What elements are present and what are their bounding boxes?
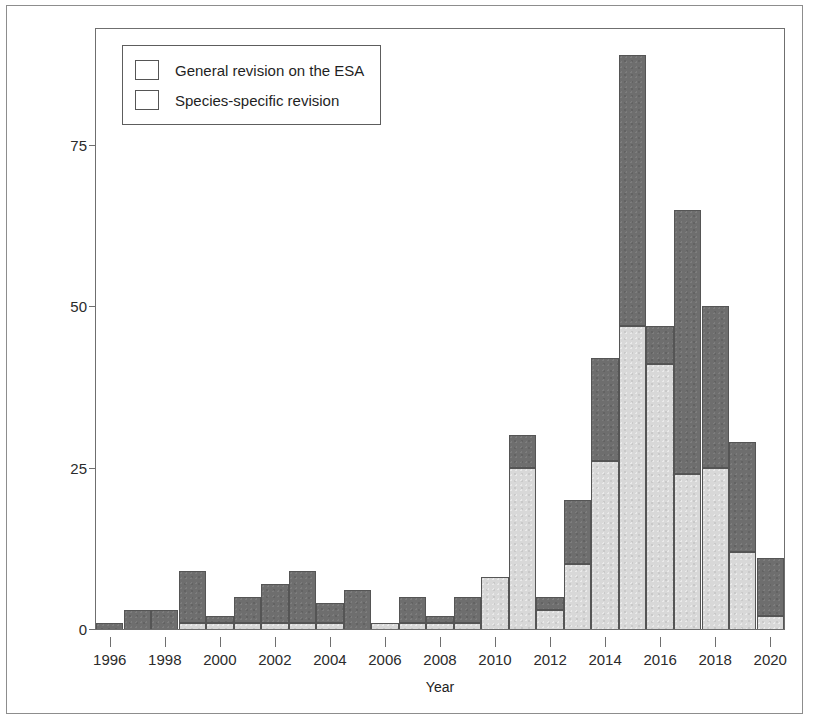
bar-segment-general-2004: [316, 603, 343, 622]
bar-segment-general-2018: [702, 306, 729, 467]
y-axis-tick-label: 75: [70, 137, 87, 154]
bar-segment-species-2019: [729, 552, 756, 629]
legend-swatch-species-icon: [135, 90, 159, 110]
bar-segment-species-2014: [591, 461, 618, 629]
bar-segment-species-2011: [509, 468, 536, 629]
x-axis-tick: [495, 637, 496, 647]
legend-label-general: General revision on the ESA: [175, 62, 364, 79]
x-axis-tick: [330, 637, 331, 647]
bar-segment-general-2001: [234, 597, 261, 623]
bar-segment-species-2015: [619, 326, 646, 629]
bar-segment-general-2002: [261, 584, 288, 623]
x-axis-tick-label: 2012: [533, 651, 566, 668]
bar-2017: [674, 210, 701, 629]
bar-2006: [371, 623, 398, 629]
x-axis-tick-label: 1998: [148, 651, 181, 668]
bar-segment-general-2020: [757, 558, 784, 616]
bar-segment-general-2005: [344, 590, 371, 629]
bar-2015: [619, 55, 646, 629]
x-axis-tick: [550, 637, 551, 647]
legend-item-species: Species-specific revision: [135, 85, 364, 115]
bar-2002: [261, 584, 288, 629]
x-axis-tick-label: 2000: [203, 651, 236, 668]
x-axis-tick: [715, 637, 716, 647]
y-axis-tick-label: 0: [79, 621, 87, 638]
y-axis-tick: [89, 145, 96, 146]
bar-segment-general-2017: [674, 210, 701, 475]
bar-segment-general-2012: [536, 597, 563, 610]
y-axis-tick-label: 50: [70, 298, 87, 315]
bar-2018: [702, 306, 729, 629]
x-axis-tick-label: 2008: [423, 651, 456, 668]
bar-2010: [481, 577, 508, 629]
legend-label-species: Species-specific revision: [175, 92, 339, 109]
bar-segment-general-2014: [591, 358, 618, 461]
x-axis-tick-label: 2020: [754, 651, 787, 668]
bar-1997: [124, 610, 151, 629]
bar-segment-species-2010: [481, 577, 508, 629]
y-axis-tick: [89, 629, 96, 630]
bar-segment-species-2001: [234, 623, 261, 629]
bar-2020: [757, 558, 784, 629]
x-axis-tick: [770, 637, 771, 647]
y-axis-tick: [89, 468, 96, 469]
x-axis-tick: [605, 637, 606, 647]
legend-swatch-general-icon: [135, 60, 159, 80]
y-axis-tick: [89, 306, 96, 307]
bar-1996: [96, 623, 123, 629]
bar-segment-general-2011: [509, 435, 536, 467]
bar-segment-species-2016: [646, 364, 673, 629]
x-axis-tick: [165, 637, 166, 647]
bar-segment-general-2009: [454, 597, 481, 623]
bar-segment-species-2002: [261, 623, 288, 629]
x-axis-tick-label: 1996: [93, 651, 126, 668]
bar-2001: [234, 597, 261, 629]
bar-2014: [591, 358, 618, 629]
legend-item-general: General revision on the ESA: [135, 55, 364, 85]
bar-segment-species-2003: [289, 623, 316, 629]
bar-segment-species-2000: [206, 623, 233, 629]
bar-2011: [509, 435, 536, 629]
x-axis-tick-label: 2014: [588, 651, 621, 668]
x-axis-tick-label: 2006: [368, 651, 401, 668]
x-axis-tick: [110, 637, 111, 647]
bar-segment-general-2007: [399, 597, 426, 623]
bar-2004: [316, 603, 343, 629]
bar-segment-general-1997: [124, 610, 151, 629]
bar-segment-general-2003: [289, 571, 316, 623]
bar-segment-general-2015: [619, 55, 646, 326]
x-axis-tick-label: 2010: [478, 651, 511, 668]
x-axis-tick: [220, 637, 221, 647]
bar-1999: [179, 571, 206, 629]
x-axis-tick: [275, 637, 276, 647]
bar-2000: [206, 616, 233, 629]
bar-2008: [426, 616, 453, 629]
x-axis-tick-label: 2004: [313, 651, 346, 668]
bar-segment-species-2017: [674, 474, 701, 629]
bar-segment-general-1998: [151, 610, 178, 629]
bar-2009: [454, 597, 481, 629]
bar-segment-species-2020: [757, 616, 784, 629]
x-axis-tick: [660, 637, 661, 647]
bar-segment-species-2008: [426, 623, 453, 629]
bar-2012: [536, 597, 563, 629]
bar-segment-species-2018: [702, 468, 729, 629]
y-axis-tick-label: 25: [70, 459, 87, 476]
figure-frame: # of Bills Introduced in Congress 025507…: [6, 5, 803, 714]
chart-legend: General revision on the ESA Species-spec…: [122, 45, 381, 125]
bar-segment-general-2016: [646, 326, 673, 365]
plot-area: 0255075 19961998200020022004200620082010…: [95, 28, 785, 630]
bar-2016: [646, 326, 673, 629]
bar-2005: [344, 590, 371, 629]
bar-segment-general-2019: [729, 442, 756, 552]
bar-segment-species-2013: [564, 564, 591, 629]
bar-segment-general-2013: [564, 500, 591, 565]
bar-1998: [151, 610, 178, 629]
bar-2019: [729, 442, 756, 629]
bar-segment-species-2012: [536, 610, 563, 629]
bar-2007: [399, 597, 426, 629]
x-axis-tick-label: 2016: [643, 651, 676, 668]
bar-segment-species-2009: [454, 623, 481, 629]
x-axis-tick: [385, 637, 386, 647]
bar-2013: [564, 500, 591, 629]
